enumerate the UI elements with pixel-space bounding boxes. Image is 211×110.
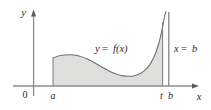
y-axis-label: y	[20, 7, 26, 18]
improper-integral-figure: y x 0 a t b y = f(x) x = b	[0, 0, 211, 110]
curve-annotation-fx: f(x)	[113, 43, 128, 55]
asymptote-annotation: x = b	[173, 43, 197, 54]
figure-container: y x 0 a t b y = f(x) x = b	[0, 0, 211, 110]
x-axis-arrowhead	[192, 83, 199, 88]
origin-label: 0	[23, 89, 28, 100]
tick-label-b: b	[168, 90, 173, 101]
curve-annotation-equals: =	[102, 43, 108, 54]
curve-annotation: y = f(x)	[94, 43, 128, 55]
shaded-area-region	[53, 22, 163, 86]
tick-label-a: a	[51, 90, 56, 101]
asymptote-annotation-b: b	[192, 43, 197, 54]
asymptote-annotation-x: x	[173, 43, 179, 54]
curve-annotation-y: y	[94, 43, 100, 54]
asymptote-annotation-equals: =	[181, 43, 187, 54]
x-axis-label: x	[196, 91, 202, 102]
y-axis-arrowhead	[31, 10, 36, 17]
tick-label-t: t	[160, 90, 163, 101]
